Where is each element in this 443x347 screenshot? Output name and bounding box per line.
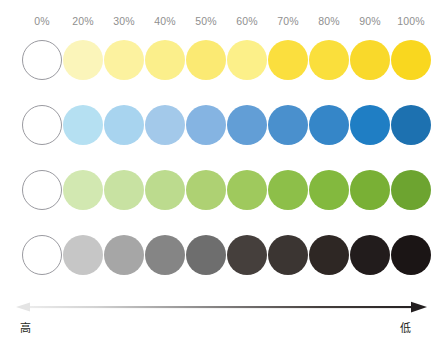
swatch-green-80pct [309, 170, 349, 210]
swatch-green-40pct [145, 170, 185, 210]
swatch-yellow-0pct [22, 40, 62, 80]
swatch-yellow-20pct [63, 40, 103, 80]
density-axis-arrow [0, 300, 443, 314]
swatch-yellow-30pct [104, 40, 144, 80]
swatch-grayscale-40pct [145, 235, 185, 275]
swatch-yellow-40pct [145, 40, 185, 80]
swatch-grayscale-50pct [186, 235, 226, 275]
swatch-grayscale-100pct [391, 235, 431, 275]
percentage-tick-row: 0%20%30%40%50%60%70%80%90%100% [0, 14, 443, 30]
swatch-yellow-80pct [309, 40, 349, 80]
swatch-green-90pct [350, 170, 390, 210]
swatch-green-70pct [268, 170, 308, 210]
swatch-yellow-70pct [268, 40, 308, 80]
swatch-blue-40pct [145, 105, 185, 145]
swatch-grayscale-80pct [309, 235, 349, 275]
swatch-blue-70pct [268, 105, 308, 145]
swatch-grayscale-60pct [227, 235, 267, 275]
swatch-grayscale-90pct [350, 235, 390, 275]
swatch-blue-90pct [350, 105, 390, 145]
tick-label-6: 70% [268, 14, 308, 28]
swatch-blue-0pct [22, 105, 62, 145]
tick-label-1: 20% [63, 14, 103, 28]
swatch-green-100pct [391, 170, 431, 210]
swatch-blue-50pct [186, 105, 226, 145]
swatch-row-green [0, 170, 443, 214]
swatch-green-50pct [186, 170, 226, 210]
swatch-yellow-100pct [391, 40, 431, 80]
tick-label-8: 90% [350, 14, 390, 28]
tick-label-4: 50% [186, 14, 226, 28]
axis-label-high: 高 [20, 322, 31, 336]
swatch-grayscale-70pct [268, 235, 308, 275]
tick-label-0: 0% [22, 14, 62, 28]
swatch-yellow-90pct [350, 40, 390, 80]
swatch-grayscale-0pct [22, 235, 62, 275]
swatch-blue-30pct [104, 105, 144, 145]
swatch-grayscale-20pct [63, 235, 103, 275]
tick-label-2: 30% [104, 14, 144, 28]
axis-label-low: 低 [400, 322, 411, 336]
swatch-row-blue [0, 105, 443, 149]
swatch-green-60pct [227, 170, 267, 210]
tick-label-5: 60% [227, 14, 267, 28]
swatch-blue-100pct [391, 105, 431, 145]
swatch-green-20pct [63, 170, 103, 210]
color-density-chart: 0%20%30%40%50%60%70%80%90%100% 高 低 [0, 0, 443, 347]
tick-label-9: 100% [391, 14, 431, 28]
swatch-row-grayscale [0, 235, 443, 279]
swatch-green-30pct [104, 170, 144, 210]
swatch-green-0pct [22, 170, 62, 210]
swatch-yellow-50pct [186, 40, 226, 80]
tick-label-7: 80% [309, 14, 349, 28]
swatch-blue-60pct [227, 105, 267, 145]
swatch-grayscale-30pct [104, 235, 144, 275]
swatch-row-yellow [0, 40, 443, 84]
swatch-blue-80pct [309, 105, 349, 145]
tick-label-3: 40% [145, 14, 185, 28]
swatch-yellow-60pct [227, 40, 267, 80]
swatch-blue-20pct [63, 105, 103, 145]
